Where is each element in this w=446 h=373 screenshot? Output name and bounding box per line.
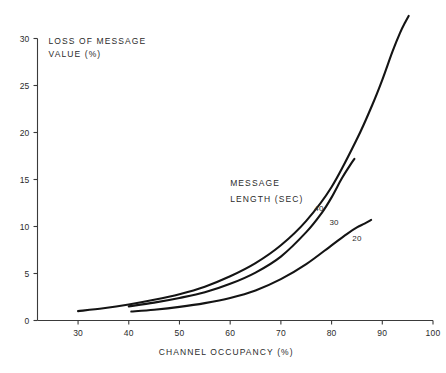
x-tick-label: 70	[276, 328, 286, 338]
message-length-annotation-line-1: MESSAGE	[230, 178, 280, 188]
y-axis-title-line-1: LOSS OF MESSAGE	[49, 36, 147, 46]
curve-label-30: 30	[329, 218, 339, 227]
x-tick-label: 40	[124, 328, 134, 338]
y-axis-title-line-2: VALUE (%)	[49, 49, 102, 59]
loss-of-message-value-line-chart: 051015202530 30405060708090100 403020 LO…	[0, 0, 446, 373]
x-tick-label: 60	[225, 328, 235, 338]
y-tick-label: 5	[25, 269, 30, 279]
y-tick-label: 20	[20, 128, 30, 138]
chart-container: 051015202530 30405060708090100 403020 LO…	[0, 0, 446, 373]
x-tick-label: 80	[327, 328, 337, 338]
y-tick-label: 15	[20, 175, 30, 185]
curve-label-20: 20	[352, 234, 362, 243]
message-length-annotation-line-2: LENGTH (SEC)	[230, 194, 303, 204]
curve-label-40: 40	[314, 204, 324, 213]
y-tick-label: 0	[25, 316, 30, 326]
x-tick-label: 50	[175, 328, 185, 338]
x-axis-title: CHANNEL OCCUPANCY (%)	[159, 347, 294, 357]
y-tick-label: 10	[20, 222, 30, 232]
y-tick-label: 25	[20, 81, 30, 91]
y-tick-label: 30	[20, 34, 30, 44]
x-tick-label: 30	[73, 328, 83, 338]
x-tick-label: 100	[426, 328, 441, 338]
x-tick-label: 90	[377, 328, 387, 338]
